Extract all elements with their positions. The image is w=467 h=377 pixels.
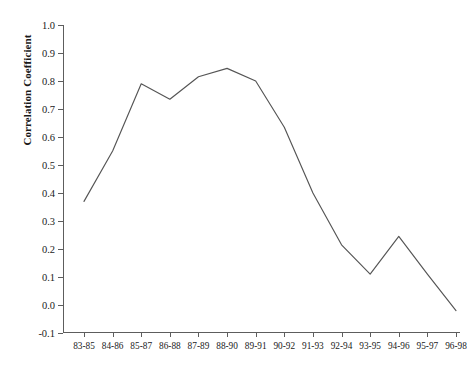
x-tick-label: 84-86	[102, 341, 124, 351]
y-tick-label: 0.5	[42, 160, 55, 171]
y-tick-label: 1.0	[42, 20, 55, 31]
y-tick-label: 0.8	[42, 76, 55, 87]
x-tick-label: 95-97	[417, 341, 439, 351]
y-tick-label: -0.1	[38, 328, 55, 339]
x-tick-mark	[399, 333, 400, 337]
x-tick-label: 85-87	[130, 341, 152, 351]
x-tick-label: 92-94	[331, 341, 353, 351]
x-tick-mark	[313, 333, 314, 337]
x-tick-mark	[227, 333, 228, 337]
y-tick-label: 0.1	[42, 272, 55, 283]
x-tick-label: 90-92	[273, 341, 295, 351]
y-tick-label: 0.4	[42, 188, 55, 199]
y-tick-label: 0.2	[42, 244, 55, 255]
plot-area: 1.00.90.80.70.60.50.40.30.20.10.0-0.1 83…	[63, 25, 460, 333]
x-tick-label: 89-91	[245, 341, 267, 351]
y-tick-label: 0.3	[42, 216, 55, 227]
x-tick-label: 91-93	[302, 341, 324, 351]
x-tick-label: 86-88	[159, 341, 181, 351]
x-tick-mark	[456, 333, 457, 337]
x-tick-mark	[113, 333, 114, 337]
x-tick-mark	[84, 333, 85, 337]
data-line-series	[63, 25, 460, 333]
x-tick-label: 83-85	[73, 341, 95, 351]
x-tick-label: 93-95	[359, 341, 381, 351]
x-tick-label: 94-96	[388, 341, 410, 351]
y-tick-label: 0.9	[42, 48, 55, 59]
y-tick-mark	[58, 333, 63, 334]
x-tick-mark	[342, 333, 343, 337]
x-tick-label: 88-90	[216, 341, 238, 351]
y-tick-label: 0.6	[42, 132, 55, 143]
x-tick-mark	[427, 333, 428, 337]
x-tick-mark	[284, 333, 285, 337]
x-tick-label: 87-89	[188, 341, 210, 351]
y-tick-label: 0.0	[42, 300, 55, 311]
x-tick-mark	[141, 333, 142, 337]
y-axis-title: Correlation Coefficient	[21, 0, 33, 185]
x-tick-mark	[198, 333, 199, 337]
y-tick-label: 0.7	[42, 104, 55, 115]
x-tick-mark	[256, 333, 257, 337]
x-tick-mark	[370, 333, 371, 337]
x-tick-label: 96-98	[445, 341, 467, 351]
x-tick-mark	[170, 333, 171, 337]
